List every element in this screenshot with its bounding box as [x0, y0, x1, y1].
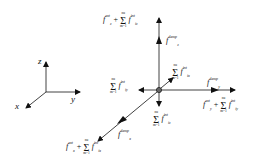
label-z-ext: fextz + nuΣm=1 fintiz [103, 12, 138, 28]
label-neg-x-int: nuΣm=1 fintix [172, 64, 190, 80]
axis-label-z: z [38, 56, 42, 66]
label-neg-y-int: nuΣm=1 fintiy [110, 78, 128, 94]
particle-node [156, 87, 161, 92]
x-axis-arrow [26, 92, 46, 108]
vector-x-damp-arrowhead [117, 116, 127, 124]
label-neg-z-int: nuΣm=1 fintiz [153, 111, 171, 127]
label-y-ext: fexty + nuΣm=1 fintiy [203, 97, 238, 113]
label-y-damp: fdampy [207, 76, 220, 90]
label-x-ext: fextx + nuΣm=1 fintix [66, 139, 101, 155]
axis-label-y: y [71, 94, 75, 104]
vector-z-damp-arrowhead [156, 36, 162, 44]
axis-label-x: x [15, 101, 19, 111]
label-x-damp: fdampx [118, 128, 131, 142]
label-z-damp: fdampz [166, 34, 179, 48]
